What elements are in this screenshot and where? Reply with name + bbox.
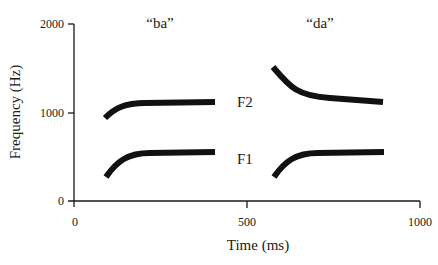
x-tick-label-1000: 1000	[408, 215, 432, 229]
y-tick-label-0: 0	[58, 194, 64, 208]
ba-f1-curve	[106, 152, 215, 177]
da-f2-curve	[273, 67, 383, 102]
f1-label: F1	[237, 151, 253, 167]
x-tick-label-500: 500	[238, 215, 256, 229]
y-tick-label-1000: 1000	[40, 106, 64, 120]
ba-label: “ba”	[146, 15, 173, 31]
ba-f2-curve	[105, 102, 215, 118]
f2-label: F2	[237, 94, 253, 110]
da-f1-curve	[274, 152, 384, 177]
da-label: “da”	[306, 15, 333, 31]
formant-chart: 2000 1000 0 0 500 1000 Time (ms) Frequen…	[0, 0, 438, 265]
x-axis-title: Time (ms)	[227, 237, 289, 254]
x-tick-label-0: 0	[72, 215, 78, 229]
y-tick-label-2000: 2000	[40, 17, 64, 31]
y-axis-title: Frequency (Hz)	[7, 65, 24, 160]
